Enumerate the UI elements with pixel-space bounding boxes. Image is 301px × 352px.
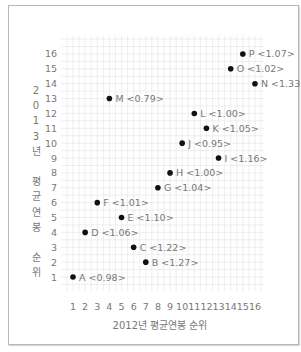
x-tick-label: 8 — [155, 301, 161, 312]
point-label: H <1.00> — [176, 167, 223, 178]
point-label: K <1.05> — [212, 123, 258, 134]
y-tick-label: 10 — [45, 138, 57, 149]
point-marker — [240, 51, 246, 57]
point-label: L <1.00> — [200, 108, 245, 119]
y-tick-label: 15 — [45, 63, 57, 74]
point-marker — [131, 244, 137, 250]
data-point-p: P <1.07> — [240, 48, 295, 59]
x-tick-label: 3 — [94, 301, 100, 312]
y-label-char: 0 — [33, 100, 39, 111]
data-point-c: C <1.22> — [131, 242, 187, 253]
point-label: G <1.04> — [164, 182, 211, 193]
y-tick-label: 7 — [51, 182, 57, 193]
x-tick-label: 2 — [82, 301, 88, 312]
point-marker — [192, 111, 198, 117]
point-marker — [252, 81, 258, 87]
x-tick-label: 9 — [167, 301, 173, 312]
y-tick-label: 12 — [45, 108, 57, 119]
point-marker — [107, 96, 113, 102]
x-tick-label: 11 — [188, 301, 200, 312]
y-label-char: 위 — [32, 266, 41, 278]
point-marker — [155, 185, 161, 191]
y-tick-label: 3 — [51, 242, 57, 253]
point-marker — [216, 155, 222, 161]
y-tick-label: 8 — [51, 167, 57, 178]
x-tick-label: 6 — [131, 301, 137, 312]
x-tick-label: 10 — [176, 301, 188, 312]
data-point-e: E <1.10> — [119, 212, 174, 223]
point-marker — [167, 170, 173, 176]
data-point-h: H <1.00> — [167, 167, 223, 178]
point-label: A <0.98> — [79, 272, 126, 283]
x-tick-label: 15 — [237, 301, 249, 312]
point-marker — [82, 230, 88, 236]
data-point-d: D <1.06> — [82, 227, 138, 238]
data-point-m: M <0.79> — [107, 93, 164, 104]
y-label-char: 평 — [32, 176, 41, 187]
point-marker — [143, 259, 149, 265]
x-tick-label: 1 — [70, 301, 76, 312]
y-tick-label: 13 — [45, 93, 57, 104]
point-marker — [204, 126, 210, 132]
y-tick-label: 5 — [51, 212, 57, 223]
data-point-o: O <1.02> — [228, 63, 284, 74]
point-label: D <1.06> — [91, 227, 138, 238]
data-point-f: F <1.01> — [94, 197, 148, 208]
point-label: C <1.22> — [140, 242, 187, 253]
y-label-char: 1 — [33, 115, 39, 126]
x-tick-label: 14 — [225, 301, 237, 312]
point-label: I <1.16> — [225, 153, 268, 164]
x-tick-label: 16 — [249, 301, 261, 312]
x-tick-label: 13 — [213, 301, 225, 312]
y-label-char: 3 — [33, 131, 39, 142]
y-label-char: 연 — [32, 207, 41, 218]
x-axis-label: 2012년 평균연봉 순위 — [113, 319, 208, 331]
x-axis-ticks: 12345678910111213141516 — [70, 301, 261, 312]
point-label: M <0.79> — [115, 93, 163, 104]
point-label: E <1.10> — [128, 212, 174, 223]
point-marker — [70, 274, 76, 280]
data-point-k: K <1.05> — [204, 123, 259, 134]
data-point-b: B <1.27> — [143, 257, 198, 268]
point-marker — [228, 66, 234, 72]
y-tick-label: 11 — [45, 123, 57, 134]
data-point-l: L <1.00> — [192, 108, 246, 119]
point-label: N <1.33> — [261, 78, 301, 89]
point-label: O <1.02> — [237, 63, 285, 74]
y-label-char: 순 — [32, 252, 41, 263]
data-point-g: G <1.04> — [155, 182, 211, 193]
scatter-chart: 12345678910111213141516 1234567891011121… — [0, 0, 301, 352]
x-tick-label: 4 — [106, 301, 112, 312]
y-tick-label: 9 — [51, 153, 57, 164]
y-label-char: 2 — [33, 85, 39, 96]
x-tick-label: 7 — [143, 301, 149, 312]
y-label-char: 년 — [32, 146, 41, 157]
y-tick-label: 14 — [45, 78, 57, 89]
point-marker — [119, 215, 125, 221]
point-label: P <1.07> — [249, 48, 295, 59]
y-axis-label: 2013년평균연봉순위 — [32, 85, 41, 278]
y-tick-label: 1 — [51, 272, 57, 283]
y-tick-label: 6 — [51, 197, 57, 208]
x-tick-label: 12 — [200, 301, 212, 312]
point-marker — [179, 140, 185, 146]
y-label-char: 봉 — [32, 222, 41, 233]
y-tick-label: 16 — [45, 48, 57, 59]
point-label: B <1.27> — [152, 257, 199, 268]
y-tick-label: 2 — [51, 257, 57, 268]
y-axis-ticks: 12345678910111213141516 — [45, 48, 57, 282]
point-marker — [94, 200, 100, 206]
x-tick-label: 5 — [118, 301, 124, 312]
y-label-char: 균 — [32, 191, 41, 202]
point-label: F <1.01> — [103, 197, 149, 208]
point-label: J <0.95> — [187, 138, 231, 149]
y-tick-label: 4 — [51, 227, 57, 238]
data-point-a: A <0.98> — [70, 272, 125, 283]
